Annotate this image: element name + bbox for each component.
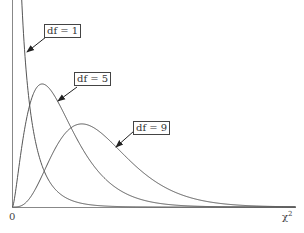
arrow-df-1 (27, 37, 46, 52)
label-df-9: df = 9 (133, 121, 170, 135)
x-axis-label: χ2 (282, 210, 293, 222)
label-df-1: df = 1 (44, 24, 81, 38)
arrow-df-9 (116, 131, 134, 147)
label-df-5: df = 5 (74, 72, 111, 86)
x-tick-origin: 0 (9, 211, 15, 222)
curve-df-9 (13, 124, 296, 207)
arrow-df-5 (58, 87, 77, 101)
x-axis-label-sup: 2 (288, 210, 292, 218)
